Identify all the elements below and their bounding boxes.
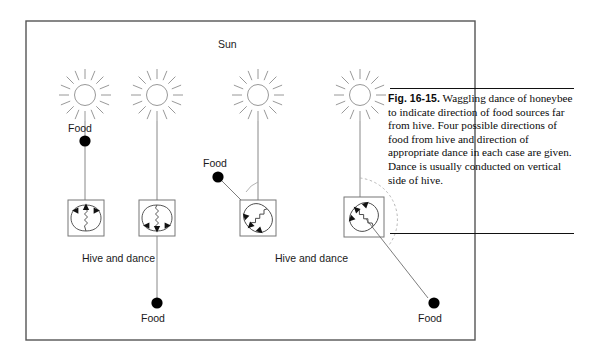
food-label-4: Food bbox=[418, 312, 442, 324]
hive-and-dance-label-right: Hive and dance bbox=[275, 252, 348, 264]
figure-16-15: Sun Food Food Food Food Hive and dance H… bbox=[0, 0, 591, 357]
sun-icon-3 bbox=[232, 69, 284, 121]
panel-3 bbox=[212, 69, 284, 238]
food-label-1: Food bbox=[68, 122, 92, 134]
food-label-2: Food bbox=[141, 312, 165, 324]
panel-2 bbox=[131, 69, 183, 309]
food-dot-4 bbox=[428, 297, 439, 308]
caption-rule-top bbox=[390, 88, 574, 89]
food-label-3: Food bbox=[203, 157, 227, 169]
food-dot-1 bbox=[79, 135, 90, 146]
sun-icon-1 bbox=[59, 69, 111, 121]
sun-icon-2 bbox=[131, 69, 183, 121]
figure-number: Fig. 16-15. bbox=[388, 93, 440, 104]
caption-body: Waggling dance of honeybee to indicate d… bbox=[388, 92, 572, 186]
caption-rule-bottom bbox=[390, 233, 574, 234]
hive-food-line-4 bbox=[366, 219, 428, 298]
sun-label: Sun bbox=[218, 38, 237, 50]
angle-arc-3 bbox=[246, 182, 258, 192]
sun-icon-4 bbox=[334, 69, 386, 121]
panel-1 bbox=[59, 69, 111, 236]
hive-and-dance-label-left: Hive and dance bbox=[82, 252, 155, 264]
food-dot-3 bbox=[212, 171, 223, 182]
food-dot-2 bbox=[151, 297, 162, 308]
figure-caption: Fig. 16-15. Waggling dance of honeybee t… bbox=[388, 92, 574, 187]
